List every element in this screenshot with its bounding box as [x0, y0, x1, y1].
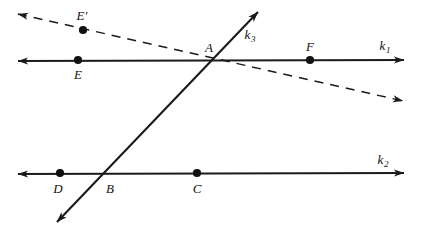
point-E-prime [79, 26, 87, 34]
point-label-C: C [193, 182, 202, 195]
point-label-E-prime: E′ [77, 9, 88, 22]
geometry-diagram: E′ E A F D B C k1 k2 k3 [0, 0, 421, 239]
line-label-k2: k2 [378, 153, 389, 169]
line-k3 [57, 12, 258, 222]
line-k2 [18, 173, 404, 174]
point-D [56, 169, 64, 177]
point-label-A: A [205, 41, 213, 54]
line-label-k3-base: k [245, 27, 251, 42]
point-label-E: E [74, 68, 82, 81]
line-label-k3: k3 [245, 28, 256, 44]
point-label-B: B [106, 182, 114, 195]
point-F [306, 56, 314, 64]
point-E [74, 56, 82, 64]
line-label-k3-subscript: 3 [250, 34, 255, 44]
point-label-F: F [306, 40, 314, 53]
line-label-k2-base: k [378, 152, 384, 167]
point-C [193, 169, 201, 177]
line-label-k2-subscript: 2 [383, 159, 388, 169]
geometry-canvas [0, 0, 421, 239]
point-label-D: D [53, 182, 62, 195]
line-label-k1: k1 [380, 39, 391, 55]
line-label-k1-subscript: 1 [385, 45, 390, 55]
line-label-k1-base: k [380, 38, 386, 53]
